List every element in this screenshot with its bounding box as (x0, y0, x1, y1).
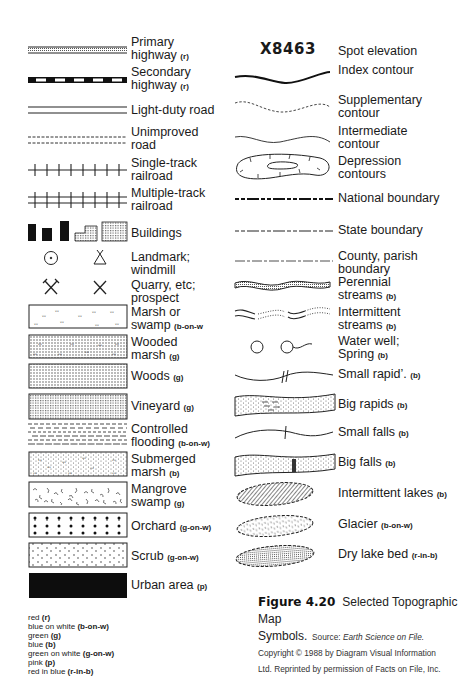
svg-text:ᵥᵥ: ᵥᵥ (33, 350, 37, 356)
label-single-track: Single-trackrailroad (131, 157, 197, 183)
label-vineyard: Vineyard (g) (131, 400, 194, 414)
legend-item: pink (p) (28, 658, 114, 667)
water-well-spring-symbol (251, 341, 312, 353)
figure-number: Figure 4.20 (258, 595, 335, 609)
intermittent-lakes-symbol (236, 480, 314, 509)
secondary-highway-symbol (28, 77, 127, 83)
svg-text:ᵥᵥ: ᵥᵥ (38, 340, 42, 346)
marsh-swamp-symbol: ᵥᵥᵥᵥᵥᵥᵥᵥᵥᵥ ᵥᵥᵥᵥᵥᵥᵥᵥ (29, 305, 127, 328)
label-spot-elevation: Spot elevation (338, 45, 417, 58)
unimproved-road-symbol (28, 137, 127, 143)
svg-text:ᵥᵥ: ᵥᵥ (33, 469, 37, 475)
figure-title-b: Symbols. (258, 629, 307, 643)
svg-text:ᵥᵥ: ᵥᵥ (34, 320, 38, 326)
label-big-falls: Big falls (b) (338, 456, 395, 470)
index-contour-symbol (235, 72, 330, 83)
label-state-boundary: State boundary (338, 224, 423, 237)
label-marsh: Marsh orswamp (b-on-w (131, 306, 203, 333)
light-duty-road-symbol (28, 107, 127, 113)
label-woods: Woods (g) (131, 370, 183, 384)
svg-text:ᵥᵥ: ᵥᵥ (95, 321, 99, 327)
mangrove-swamp-symbol (29, 482, 127, 507)
svg-text:ᵥᵥ: ᵥᵥ (58, 350, 62, 356)
spot-elevation-symbol: X8463 (260, 40, 316, 58)
woods-symbol (29, 364, 127, 388)
svg-text:ᵥᵥ: ᵥᵥ (90, 464, 94, 470)
label-secondary-highway: Secondaryhighway (r) (131, 66, 191, 93)
submerged-marsh-symbol: ᵥᵥᵥᵥᵥᵥᵥᵥ ᵥᵥᵥᵥ ᵥᵥᵥᵥᵥᵥ (29, 452, 127, 476)
quarry-prospect-symbol (43, 279, 106, 294)
label-wooded-marsh: Woodedmarsh (g) (131, 336, 179, 363)
label-small-falls: Small falls (b) (338, 426, 409, 440)
svg-text:ᵥᵥ: ᵥᵥ (112, 469, 116, 475)
svg-text:ᵥᵥ: ᵥᵥ (42, 312, 46, 318)
label-buildings: Buildings (131, 227, 182, 240)
label-small-rapids: Small rapid’. (b) (338, 368, 420, 382)
svg-text:ᵥᵥ: ᵥᵥ (70, 340, 74, 346)
svg-text:ᵥᵥ: ᵥᵥ (55, 307, 59, 313)
label-intermittent-streams: Intermittentstreams (b) (338, 306, 401, 333)
permission-line: Ltd. Reprinted by permission of Facts on… (258, 664, 441, 674)
svg-text:ᵥᵥ: ᵥᵥ (78, 312, 82, 318)
figure-caption: Figure 4.20 Selected Topographic Map Sym… (258, 594, 468, 677)
legend-item: green on white (g-on-w) (28, 649, 114, 658)
label-perennial-streams: Perennialstreams (b) (338, 276, 396, 303)
svg-text:ᵥᵥ: ᵥᵥ (82, 454, 86, 460)
svg-text:ᵥᵥ: ᵥᵥ (38, 456, 42, 462)
intermediate-contour-symbol (235, 136, 330, 142)
intermittent-streams-symbol (235, 308, 330, 319)
dry-lake-bed-symbol (235, 543, 314, 570)
label-unimproved-road: Unimprovedroad (131, 126, 198, 152)
svg-text:ᵥᵥ: ᵥᵥ (85, 348, 89, 354)
svg-text:ᵥᵥ: ᵥᵥ (47, 463, 51, 469)
vineyard-symbol (29, 394, 127, 419)
copyright-line: Copyright © 1988 by Diagram Visual Infor… (258, 648, 436, 658)
label-depression-contours: Depressioncontours (338, 155, 401, 181)
legend-item: blue on white (b-on-w) (28, 622, 114, 631)
label-controlled-flooding: Controlledflooding (b-on-w) (131, 423, 210, 450)
label-mangrove: Mangroveswamp (g) (131, 483, 187, 510)
label-scrub: Scrub (g-on-w) (131, 550, 199, 564)
urban-area-symbol (29, 573, 127, 598)
legend-item: blue (b) (28, 640, 114, 649)
wooded-marsh-symbol: ᵥᵥᵥᵥᵥᵥᵥᵥ ᵥᵥᵥᵥᵥᵥᵥᵥ (29, 335, 127, 358)
label-urban-area: Urban area (p) (131, 579, 207, 593)
small-rapids-symbol (235, 370, 333, 383)
svg-text:ᵥᵥ: ᵥᵥ (98, 341, 102, 347)
color-legend: red (r) blue on white (b-on-w) green (g)… (28, 613, 114, 676)
legend-item: red in blue (r-in-b) (28, 667, 114, 676)
label-primary-highway: Primaryhighway (r) (131, 36, 189, 63)
svg-text:ᵥᵥ: ᵥᵥ (115, 320, 119, 326)
supplementary-contour-symbol (235, 102, 330, 112)
legend-item: green (g) (28, 631, 114, 640)
big-falls-symbol (235, 454, 335, 476)
label-intermediate-contour: Intermediatecontour (338, 125, 407, 151)
label-orchard: Orchard (g-on-w) (131, 520, 211, 534)
label-multiple-track: Multiple-trackrailroad (131, 187, 205, 213)
single-track-railroad-symbol (28, 164, 127, 176)
svg-text:ᵥᵥ: ᵥᵥ (115, 340, 119, 346)
landmark-windmill-symbol (45, 250, 107, 265)
svg-text:ᵥᵥ: ᵥᵥ (60, 318, 64, 324)
label-dry-lake-bed: Dry lake bed (r-in-b) (338, 548, 437, 562)
svg-text:ᵥᵥ: ᵥᵥ (68, 469, 72, 475)
svg-text:ᵥᵥ: ᵥᵥ (112, 456, 116, 462)
primary-highway-symbol (28, 47, 127, 53)
perennial-streams-symbol (235, 281, 330, 290)
label-glacier: Glacier (b-on-w) (338, 518, 413, 532)
label-intermittent-lakes: Intermittent lakes (b) (338, 487, 447, 501)
label-national-boundary: National boundary (338, 192, 439, 205)
label-quarry: Quarry, etc;prospect (131, 279, 195, 305)
depression-contours-symbol (237, 154, 330, 179)
source-title: Earth Science on File. (343, 632, 424, 642)
controlled-flooding-symbol (28, 424, 127, 444)
label-index-contour: Index contour (338, 64, 414, 77)
label-supplementary-contour: Supplementarycontour (338, 94, 422, 120)
svg-text:ᵥᵥ: ᵥᵥ (112, 350, 116, 356)
label-submerged-marsh: Submergedmarsh (b) (131, 453, 196, 480)
scrub-symbol (29, 543, 127, 567)
svg-text:ᵥᵥ: ᵥᵥ (92, 308, 96, 314)
legend-item: red (r) (28, 613, 114, 622)
orchard-symbol (29, 513, 127, 537)
label-landmark: Landmark;windmill (131, 251, 190, 277)
